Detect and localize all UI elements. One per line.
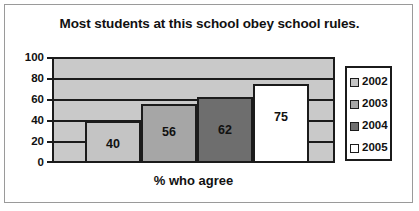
y-axis-tick-100: 100 <box>14 52 44 64</box>
bar-2002[interactable]: 40 <box>85 121 141 163</box>
legend-item-2004[interactable]: 2004 <box>350 115 390 137</box>
bar-value-2003: 56 <box>162 126 176 139</box>
y-axis-tick-80: 80 <box>14 73 44 85</box>
legend-swatch-icon-2004 <box>350 122 359 131</box>
y-axis-tick-20: 20 <box>14 136 44 148</box>
x-axis-label: % who agree <box>52 173 335 188</box>
y-axis-tick-40: 40 <box>14 115 44 127</box>
legend-swatch-icon-2003 <box>350 100 359 109</box>
bar-value-2002: 40 <box>106 138 120 151</box>
legend-label-2005: 2005 <box>362 142 388 154</box>
y-axis-tick-60: 60 <box>14 94 44 106</box>
legend-swatch-icon-2005 <box>350 144 359 153</box>
legend-item-2003[interactable]: 2003 <box>350 93 390 115</box>
y-axis-tick-0: 0 <box>14 157 44 169</box>
legend-label-2002: 2002 <box>362 76 388 88</box>
legend-label-2004: 2004 <box>362 120 388 132</box>
bar-2005[interactable]: 75 <box>253 84 309 164</box>
bars-layer: 40 56 62 75 <box>52 57 335 163</box>
bar-2003[interactable]: 56 <box>141 104 197 163</box>
chart-screenshot: Most students at this school obey school… <box>0 0 419 211</box>
bar-2004[interactable]: 62 <box>197 97 253 163</box>
legend-item-2002[interactable]: 2002 <box>350 71 390 93</box>
legend-swatch-icon-2002 <box>350 78 359 87</box>
legend-label-2003: 2003 <box>362 98 388 110</box>
bar-value-2005: 75 <box>274 111 288 124</box>
bar-value-2004: 62 <box>218 124 232 137</box>
chart-title: Most students at this school obey school… <box>0 16 419 31</box>
chart-legend: 2002 2003 2004 2005 <box>345 66 392 161</box>
legend-item-2005[interactable]: 2005 <box>350 137 390 159</box>
